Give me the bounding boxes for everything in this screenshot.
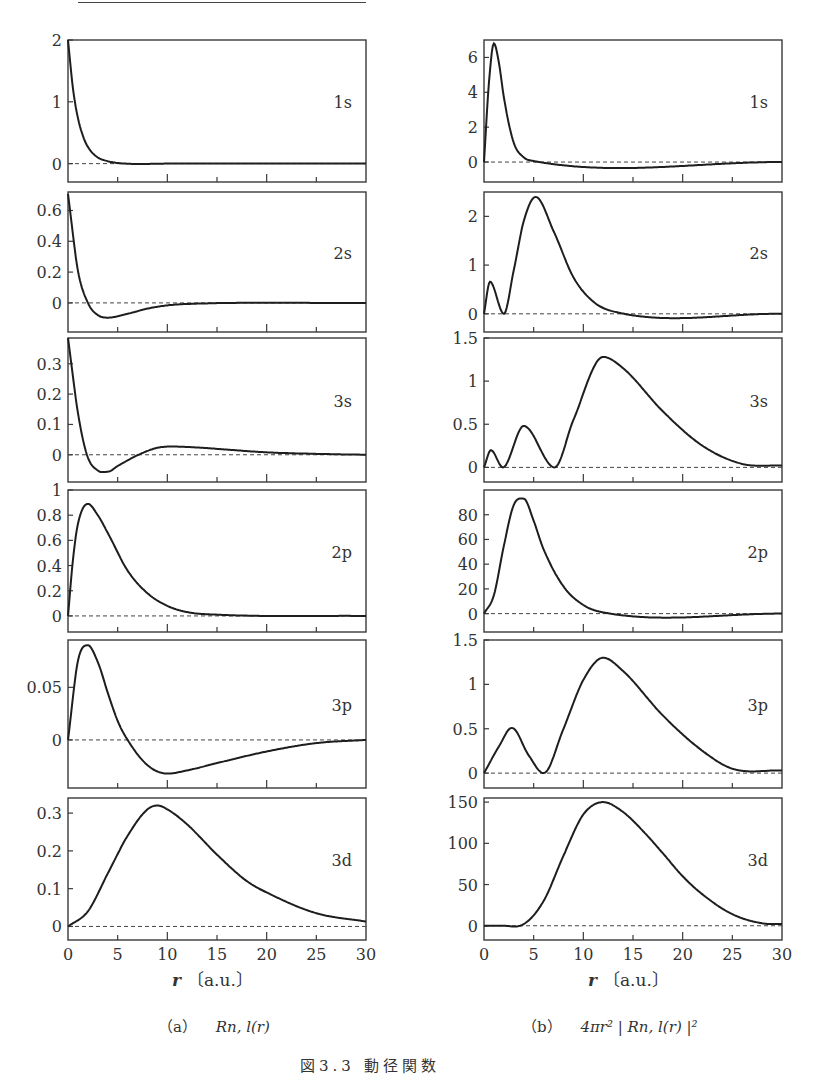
x-tick-label: 10 xyxy=(157,945,177,964)
plot-frame xyxy=(68,490,366,632)
orbital-label: 2p xyxy=(748,543,768,562)
curve-2p xyxy=(484,499,782,618)
y-tick-label: 0 xyxy=(468,917,478,936)
y-tick-label: 6 xyxy=(468,48,478,67)
y-tick-label: 0.5 xyxy=(453,720,478,739)
x-axis-title-b: r〔a.u.〕 xyxy=(588,966,669,991)
orbital-label: 3s xyxy=(334,392,352,411)
y-tick-label: 1 xyxy=(468,372,478,391)
y-tick-label: 0 xyxy=(468,153,478,172)
x-tick-label: 0 xyxy=(479,945,489,964)
y-tick-label: 0.5 xyxy=(453,415,478,434)
curve-2s xyxy=(484,197,782,318)
curve-1s xyxy=(484,44,782,169)
orbital-label: 3s xyxy=(750,392,768,411)
x-tick-label: 0 xyxy=(63,945,73,964)
curve-2s xyxy=(68,194,366,318)
y-tick-label: 0.4 xyxy=(37,232,62,251)
plot-frame xyxy=(484,640,782,788)
plot-frame xyxy=(484,192,782,332)
y-tick-label: 20 xyxy=(458,580,478,599)
y-tick-label: 2 xyxy=(468,118,478,137)
curve-3s xyxy=(68,338,366,472)
curve-3d xyxy=(68,806,366,927)
caption-b: （b） 4πr² | Rn, l(r) |² xyxy=(522,1015,698,1036)
x-tick-label: 10 xyxy=(573,945,593,964)
x-tick-label: 30 xyxy=(356,945,376,964)
x-tick-label: 15 xyxy=(623,945,643,964)
panel-a-2s: 00.20.40.62s xyxy=(37,192,366,332)
y-tick-label: 1 xyxy=(468,256,478,275)
panel-a-1s: 0121s xyxy=(52,31,366,182)
panel-a-3d: 00.10.20.33d051015202530 xyxy=(37,798,377,964)
y-tick-label: 100 xyxy=(447,834,478,853)
curve-2p xyxy=(68,504,366,616)
plot-frame xyxy=(68,640,366,788)
panel-b-2s: 0122s xyxy=(468,192,782,332)
y-tick-label: 1 xyxy=(52,93,62,112)
y-tick-label: 2 xyxy=(468,207,478,226)
x-tick-label: 5 xyxy=(529,945,539,964)
x-axis-title-a: r〔a.u.〕 xyxy=(172,966,253,991)
panel-b-3d: 0501001503d051015202530 xyxy=(447,793,792,964)
y-tick-label: 0 xyxy=(468,305,478,324)
y-tick-label: 0 xyxy=(52,446,62,465)
y-tick-label: 1 xyxy=(52,481,62,500)
x-tick-label: 20 xyxy=(672,945,692,964)
y-tick-label: 60 xyxy=(458,530,478,549)
y-tick-label: 0 xyxy=(52,607,62,626)
panel-a-3p: 00.053p xyxy=(26,640,366,788)
panel-a-3s: 00.10.20.33s xyxy=(37,338,366,482)
orbital-label: 1s xyxy=(334,93,352,112)
y-tick-label: 4 xyxy=(468,83,478,102)
plot-frame xyxy=(68,338,366,482)
caption-b-expression: 4πr² | Rn, l(r) |² xyxy=(580,1018,697,1036)
y-tick-label: 0.05 xyxy=(26,678,62,697)
y-tick-label: 1 xyxy=(468,675,478,694)
x-tick-label: 25 xyxy=(306,945,326,964)
curve-3d xyxy=(484,802,782,926)
x-tick-label: 30 xyxy=(772,945,792,964)
y-tick-label: 0.2 xyxy=(37,263,62,282)
orbital-label: 2s xyxy=(334,244,352,263)
curve-3p xyxy=(484,658,782,773)
orbital-label: 3d xyxy=(748,851,768,870)
y-tick-label: 0.8 xyxy=(37,506,62,525)
y-tick-label: 0 xyxy=(52,294,62,313)
plot-frame xyxy=(68,40,366,182)
y-tick-label: 0 xyxy=(468,458,478,477)
y-tick-label: 0.4 xyxy=(37,557,62,576)
orbital-label: 3p xyxy=(332,696,352,715)
caption-a: （a） Rn, l(r) xyxy=(158,1015,270,1036)
y-tick-label: 0 xyxy=(52,155,62,174)
orbital-label: 3p xyxy=(748,696,768,715)
y-tick-label: 0.3 xyxy=(37,804,62,823)
figure-title: 図3.3 動径関数 xyxy=(300,1054,440,1075)
plot-frame xyxy=(484,490,782,632)
plot-frame xyxy=(68,192,366,332)
x-tick-label: 15 xyxy=(207,945,227,964)
y-tick-label: 1.5 xyxy=(453,329,478,348)
x-tick-label: 25 xyxy=(722,945,742,964)
y-tick-label: 0 xyxy=(468,605,478,624)
y-tick-label: 0.6 xyxy=(37,531,62,550)
panel-a-2p: 00.20.40.60.812p xyxy=(37,481,366,632)
y-tick-label: 0.2 xyxy=(37,385,62,404)
curve-1s xyxy=(68,40,366,164)
y-tick-label: 80 xyxy=(458,506,478,525)
caption-b-label: （b） xyxy=(522,1018,562,1036)
y-tick-label: 0.1 xyxy=(37,415,62,434)
panel-b-2p: 0204060802p xyxy=(458,490,782,632)
x-tick-label: 5 xyxy=(113,945,123,964)
y-tick-label: 50 xyxy=(458,876,478,895)
y-tick-label: 150 xyxy=(447,793,478,812)
x-tick-label: 20 xyxy=(256,945,276,964)
y-tick-label: 0.2 xyxy=(37,842,62,861)
orbital-label: 2p xyxy=(332,543,352,562)
panel-b-1s: 02461s xyxy=(468,40,782,182)
y-tick-label: 2 xyxy=(52,31,62,50)
y-tick-label: 0 xyxy=(468,764,478,783)
y-tick-label: 0 xyxy=(52,917,62,936)
orbital-label: 3d xyxy=(332,851,352,870)
